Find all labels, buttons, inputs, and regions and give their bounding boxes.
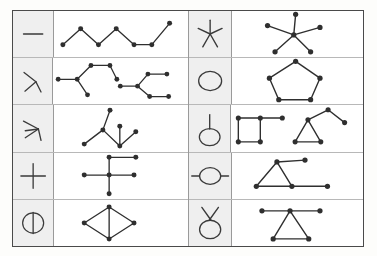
graph-edges (85, 207, 135, 239)
graph-nodes (82, 107, 139, 148)
graph-cell-diamond-cycle (54, 200, 187, 246)
glyph-cell-circle (189, 58, 232, 104)
table-row (189, 58, 363, 105)
circle-glyph (189, 58, 231, 104)
table-row (13, 105, 188, 152)
graph-nodes (236, 107, 347, 144)
graph-nodes (254, 157, 330, 188)
graph-cell-cross-star (54, 153, 187, 199)
graph-edges (269, 62, 320, 100)
cross-star-graph (54, 151, 187, 201)
glyph-cell-circle-with-stem (189, 105, 231, 151)
graph-cell-zigzag-path (54, 11, 187, 57)
graph-nodes (56, 63, 171, 99)
graph-nodes (259, 208, 322, 241)
glyph-cell-asterisk-star (189, 11, 232, 57)
graph-cell-y-and-v-tree (54, 105, 187, 151)
graph-edges (262, 211, 320, 239)
graph-cell-two-trees (53, 58, 188, 104)
pentagon-cycle-graph (232, 56, 363, 106)
table-row (189, 105, 363, 152)
plus-glyph (13, 153, 53, 199)
table-row (13, 153, 188, 200)
symbol-graph-table (12, 10, 364, 247)
two-tree-graphs (53, 55, 188, 107)
circle-with-stem-glyph (189, 105, 230, 153)
graph-edges (238, 109, 344, 141)
diamond-cycle-graph (54, 200, 187, 246)
y-and-v-tree-graph (54, 104, 187, 154)
graph-nodes (267, 59, 323, 103)
table-row (189, 153, 363, 200)
graph-cell-five-spoke-star (232, 11, 363, 57)
graph-cell-pentagon-cycle (232, 58, 363, 104)
graph-nodes (61, 21, 173, 47)
glyph-cell-circle-antenna (189, 200, 232, 246)
graph-cell-square-and-triangle (231, 105, 363, 151)
graph-edges (256, 160, 327, 186)
circle-with-antenna-glyph (189, 199, 231, 247)
rotated-psi-glyph (13, 106, 53, 152)
circle-with-side-lines-glyph (189, 153, 231, 199)
graph-edges (85, 110, 137, 146)
rotated-y-glyph (13, 58, 52, 104)
graph-cell-triangle-with-tails (232, 153, 363, 199)
left-half (13, 11, 189, 246)
asterisk-star-glyph (189, 11, 231, 57)
glyph-cell-horizontal-dash (13, 11, 54, 57)
right-half (189, 11, 363, 246)
table-row (189, 11, 363, 58)
table-row (13, 200, 188, 246)
glyph-cell-rotated-psi (13, 105, 54, 151)
glyph-cell-circle-vertical-line (13, 200, 54, 246)
zigzag-path-graph (54, 12, 187, 56)
glyph-cell-rotated-y (13, 58, 53, 104)
table-row (13, 11, 188, 58)
circle-with-vertical-line-glyph (13, 200, 53, 246)
glyph-cell-circle-side-lines (189, 153, 232, 199)
triangle-with-tails-graph (232, 153, 363, 199)
glyph-cell-plus (13, 153, 54, 199)
square-plus-triangle-graphs (231, 105, 363, 153)
graph-edges (58, 66, 168, 97)
table-row (13, 58, 188, 105)
horizontal-dash-glyph (13, 14, 53, 54)
triangle-with-crossbar-graph (232, 200, 363, 246)
figure-page (0, 0, 377, 256)
graph-cell-triangle-crossbar (232, 200, 363, 246)
table-row (189, 200, 363, 246)
five-spoke-star-graph (232, 9, 363, 59)
graph-nodes (265, 12, 323, 55)
